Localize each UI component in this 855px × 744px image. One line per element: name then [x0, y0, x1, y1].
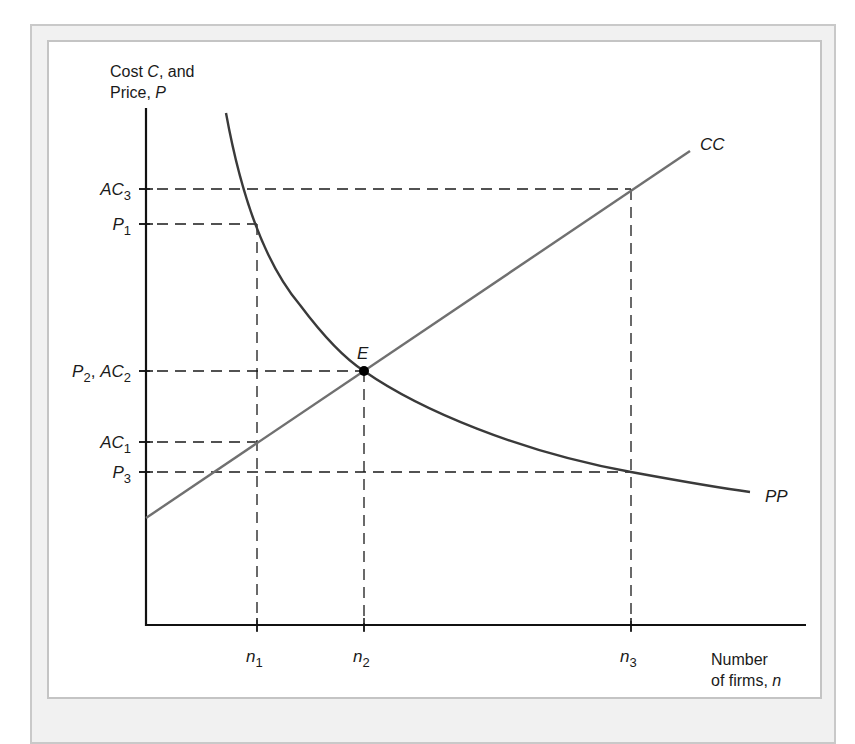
y-tick-ac3: AC3	[99, 180, 131, 203]
guide-lines	[139, 189, 631, 631]
y-axis-title: Cost C, and Price, P	[110, 63, 199, 101]
x-tick-n3: n3	[620, 647, 637, 670]
y-tick-ac1: AC1	[99, 433, 131, 456]
cc-line	[146, 151, 690, 518]
cc-label: CC	[700, 135, 725, 154]
x-tick-n1: n1	[246, 647, 263, 670]
pp-label: PP	[765, 487, 788, 506]
y-tick-p2-ac2: P2, AC2	[72, 362, 131, 385]
axis-ticks	[139, 189, 631, 632]
x-axis-title: Number of firms, n	[711, 651, 781, 689]
y-tick-p1: P1	[112, 215, 131, 238]
pp-curve	[226, 113, 750, 492]
equilibrium-point	[359, 366, 369, 376]
y-tick-p3: P3	[112, 463, 131, 486]
x-tick-n2: n2	[353, 647, 370, 670]
equilibrium-label: E	[357, 344, 369, 363]
